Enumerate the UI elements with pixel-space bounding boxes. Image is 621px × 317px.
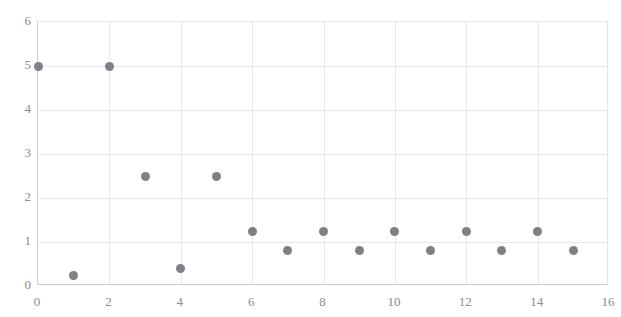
x-tick-label: 12 [445, 295, 485, 308]
data-point [141, 172, 150, 181]
plot-area [37, 21, 608, 285]
data-point [462, 227, 471, 236]
y-tick-label: 1 [5, 234, 31, 247]
y-tick-label: 5 [5, 58, 31, 71]
x-tick-label: 14 [517, 295, 557, 308]
gridline-vertical [538, 22, 539, 284]
y-tick-label: 4 [5, 102, 31, 115]
x-tick-label: 10 [374, 295, 414, 308]
data-point [569, 246, 578, 255]
x-tick-label: 0 [17, 295, 57, 308]
gridline-horizontal [38, 110, 607, 111]
x-tick-label: 8 [303, 295, 343, 308]
x-tick-label: 16 [588, 295, 621, 308]
data-point [69, 271, 78, 280]
gridline-horizontal [38, 198, 607, 199]
data-point [212, 172, 221, 181]
scatter-chart: 0123456 0246810121416 [0, 0, 621, 317]
data-point [34, 62, 43, 71]
gridline-vertical [395, 22, 396, 284]
data-point [533, 227, 542, 236]
data-point [176, 264, 185, 273]
y-tick-label: 6 [5, 14, 31, 27]
data-point [497, 246, 506, 255]
y-tick-label: 3 [5, 146, 31, 159]
x-axis-tick-labels: 0246810121416 [37, 295, 608, 313]
gridline-vertical [181, 22, 182, 284]
y-tick-label: 0 [5, 278, 31, 291]
data-point [390, 227, 399, 236]
gridline-horizontal [38, 154, 607, 155]
y-axis-tick-labels: 0123456 [0, 21, 31, 285]
data-point [355, 246, 364, 255]
chart-title [0, 0, 621, 6]
x-tick-label: 4 [160, 295, 200, 308]
data-point [426, 246, 435, 255]
data-point [105, 62, 114, 71]
gridline-vertical [466, 22, 467, 284]
y-tick-label: 2 [5, 190, 31, 203]
x-tick-label: 6 [231, 295, 271, 308]
gridline-vertical [252, 22, 253, 284]
x-tick-label: 2 [88, 295, 128, 308]
data-point [248, 227, 257, 236]
gridline-horizontal [38, 66, 607, 67]
gridline-vertical [324, 22, 325, 284]
data-point [319, 227, 328, 236]
data-point [283, 246, 292, 255]
gridline-horizontal [38, 242, 607, 243]
